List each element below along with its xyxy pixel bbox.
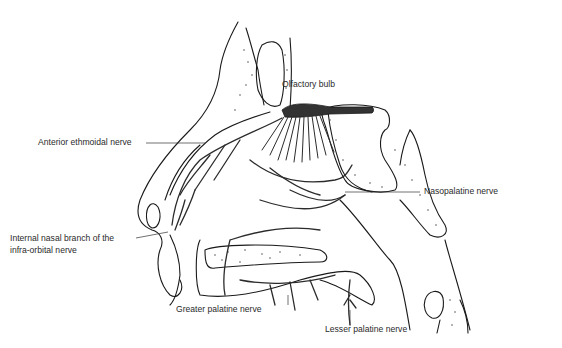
label-greater-palatine-nerve: Greater palatine nerve xyxy=(176,304,262,315)
olfactory-bulb-shape xyxy=(282,104,374,117)
label-internal-nasal-branch-line2: infra-orbital nerve xyxy=(10,245,77,256)
label-lesser-palatine-nerve: Lesser palatine nerve xyxy=(325,324,407,335)
label-nasopalatine-nerve: Nasopalatine nerve xyxy=(424,186,498,197)
nasal-nerve-diagram: Olfactory bulb Anterior ethmoidal nerve … xyxy=(0,0,562,348)
anatomical-drawing xyxy=(0,0,562,348)
label-anterior-ethmoidal-nerve: Anterior ethmoidal nerve xyxy=(38,137,132,148)
leader-internal-nasal xyxy=(136,232,168,238)
label-olfactory-bulb: Olfactory bulb xyxy=(282,79,335,90)
label-internal-nasal-branch-line1: Internal nasal branch of the xyxy=(10,233,114,244)
